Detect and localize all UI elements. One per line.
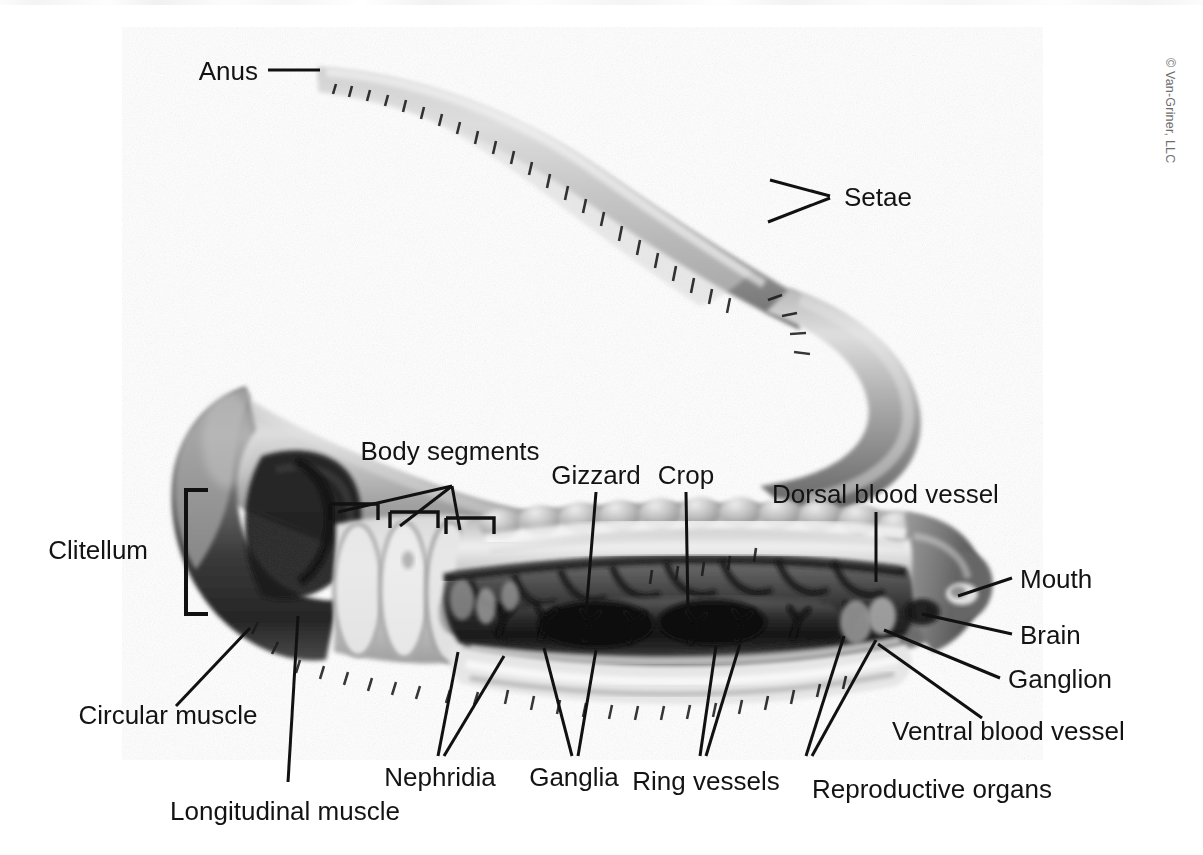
label-brain: Brain (1020, 620, 1081, 650)
anatomy-illustration: Anus Setae Clitellum Body segments Gizza… (0, 0, 1203, 855)
label-nephridia: Nephridia (384, 762, 496, 792)
label-reproductive-organs: Reproductive organs (812, 774, 1052, 804)
earthworm-anatomy-figure: Anus Setae Clitellum Body segments Gizza… (0, 0, 1203, 855)
label-dorsal-blood-vessel: Dorsal blood vessel (772, 479, 999, 509)
label-ventral-blood-vessel: Ventral blood vessel (892, 716, 1125, 746)
label-gizzard: Gizzard (551, 460, 641, 490)
label-anus: Anus (199, 56, 258, 86)
label-ganglion: Ganglion (1008, 664, 1112, 694)
label-mouth: Mouth (1020, 564, 1092, 594)
label-longitudinal-muscle: Longitudinal muscle (170, 796, 400, 826)
worm-trunk (443, 497, 968, 705)
label-ring-vessels: Ring vessels (632, 766, 779, 796)
worm-body (171, 67, 992, 720)
label-ganglia: Ganglia (529, 762, 619, 792)
worm-tail-section (318, 67, 800, 330)
leader-crop (686, 492, 688, 612)
leader-setae-lower (768, 198, 830, 222)
label-setae: Setae (844, 182, 912, 212)
label-circular-muscle: Circular muscle (78, 700, 257, 730)
copyright-credit: © Van-Griner, LLC (1163, 58, 1177, 163)
label-crop: Crop (658, 460, 714, 490)
label-body-segments: Body segments (360, 436, 539, 466)
leader-circular-muscle (176, 628, 250, 706)
label-clitellum: Clitellum (48, 535, 148, 565)
leader-setae-upper (770, 180, 830, 196)
